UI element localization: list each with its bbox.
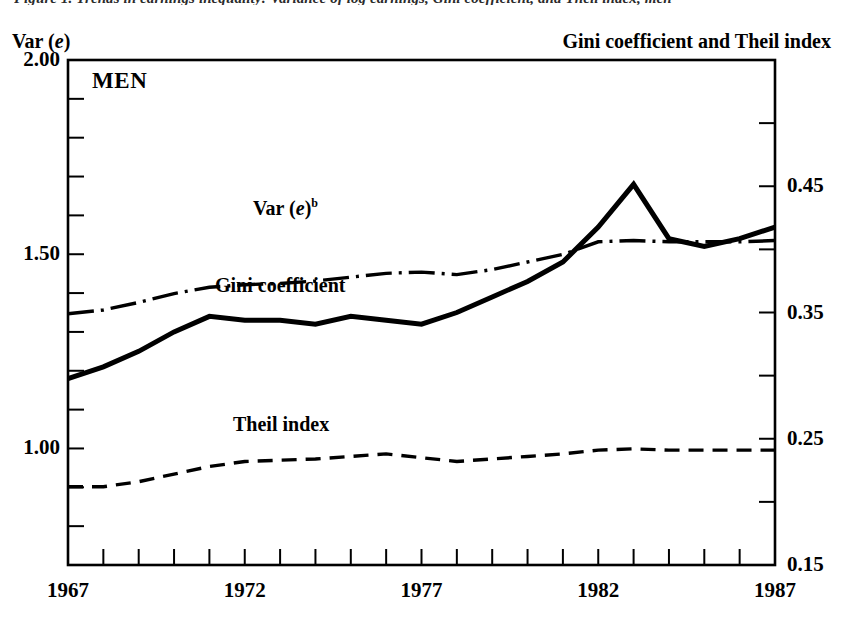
series-label-theil: Theil index bbox=[233, 413, 329, 436]
series-label-gini: Gini coefficient bbox=[215, 274, 346, 297]
right-tick-label: 0.25 bbox=[787, 428, 843, 449]
x-tick-label: 1967 bbox=[23, 580, 113, 601]
left-tick-label: 1.50 bbox=[6, 243, 60, 264]
right-tick-label: 0.45 bbox=[787, 175, 843, 196]
x-tick-label: 1982 bbox=[553, 580, 643, 601]
series-line-2 bbox=[68, 449, 775, 487]
series-line-0 bbox=[68, 184, 775, 378]
x-tick-label: 1972 bbox=[200, 580, 290, 601]
right-tick-label: 0.15 bbox=[787, 554, 843, 575]
data-series bbox=[68, 184, 775, 486]
left-tick-label: 2.00 bbox=[6, 49, 60, 70]
plot-frame bbox=[68, 60, 775, 565]
x-tick-label: 1977 bbox=[377, 580, 467, 601]
frame-rect bbox=[68, 60, 775, 565]
left-tick-label: 1.00 bbox=[6, 437, 60, 458]
series-label-var-e: Var (e)b bbox=[253, 196, 318, 220]
figure-container: Figure 1. Trends in earnings inequality:… bbox=[0, 0, 843, 628]
right-tick-label: 0.35 bbox=[787, 302, 843, 323]
series-line-1 bbox=[68, 241, 775, 314]
plot-canvas bbox=[0, 0, 843, 628]
x-tick-label: 1987 bbox=[730, 580, 820, 601]
